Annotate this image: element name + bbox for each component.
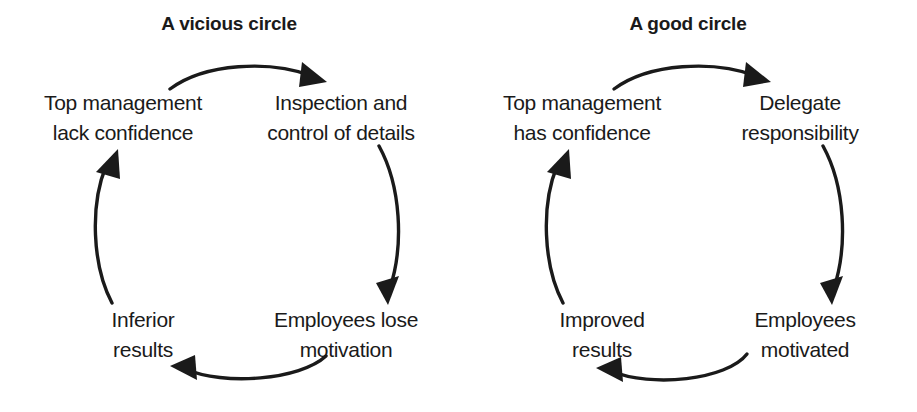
node-top-management-lack-confidence: Top management lack confidence — [8, 88, 238, 148]
node-line-2: responsibility — [687, 118, 913, 148]
node-line-2: control of details — [228, 118, 454, 148]
node-line-1: Top management — [8, 88, 238, 118]
node-employees-motivated: Employees motivated — [705, 305, 905, 365]
node-line-2: motivated — [705, 335, 905, 365]
arrow-top — [614, 62, 771, 89]
good-circle-diagram: A good circle Top management has confide… — [459, 0, 917, 412]
arrow-left — [546, 149, 571, 303]
node-line-2: has confidence — [467, 118, 697, 148]
node-top-management-has-confidence: Top management has confidence — [467, 88, 697, 148]
diagram-canvas: A vicious circle Top — [0, 0, 917, 412]
node-inspection-and-control-of-details: Inspection and control of details — [228, 88, 454, 148]
node-line-1: Employees — [705, 305, 905, 335]
node-line-1: Employees lose — [246, 305, 446, 335]
node-line-2: results — [53, 335, 233, 365]
arrow-left — [95, 149, 120, 303]
node-line-1: Top management — [467, 88, 697, 118]
node-line-2: lack confidence — [8, 118, 238, 148]
node-line-1: Improved — [512, 305, 692, 335]
arrow-right — [376, 146, 399, 305]
node-line-1: Delegate — [687, 88, 913, 118]
node-line-1: Inspection and — [228, 88, 454, 118]
arrow-top — [170, 62, 327, 89]
node-line-2: results — [512, 335, 692, 365]
node-employees-lose-motivation: Employees lose motivation — [246, 305, 446, 365]
node-improved-results: Improved results — [512, 305, 692, 365]
node-line-1: Inferior — [53, 305, 233, 335]
arrow-right — [820, 146, 843, 305]
vicious-circle-diagram: A vicious circle Top — [0, 0, 458, 412]
node-delegate-responsibility: Delegate responsibility — [687, 88, 913, 148]
node-inferior-results: Inferior results — [53, 305, 233, 365]
node-line-2: motivation — [246, 335, 446, 365]
